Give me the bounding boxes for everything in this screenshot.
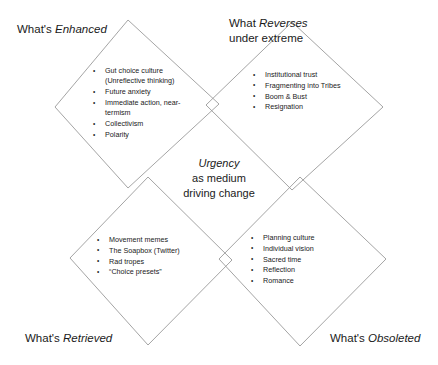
list-item: Boom & Bust [252,92,360,102]
quadrant-label-reverses: What Reverses under extreme [229,16,349,46]
quadrant-label-reverses-prefix: What [229,17,259,29]
center-caption-line2: driving change [0,186,438,201]
quadrant-label-retrieved-emphasis: Retrieved [63,332,112,344]
quadrant-items-retrieved: Movement memesThe Soapbox (Twitter)Rad t… [96,235,202,278]
quadrant-label-reverses-emphasis: Reverses [259,17,308,29]
quadrant-label-obsoleted-prefix: What's [330,332,368,344]
center-caption: Urgency as medium driving change [0,156,438,200]
quadrant-label-enhanced-prefix: What's [17,23,55,35]
center-caption-line1: as medium [0,171,438,186]
quadrant-label-obsoleted-emphasis: Obsoleted [368,332,420,344]
quadrant-items-obsoleted: Planning cultureIndividual visionSacred … [250,233,356,287]
list-item: Immediate action, near-termism [92,98,198,119]
quadrant-label-obsoleted: What's Obsoleted [330,331,420,346]
list-item: Romance [250,276,356,286]
list-item: Rad tropes [96,257,202,267]
list-item: Polarity [92,130,198,140]
quadrant-label-retrieved-prefix: What's [25,332,63,344]
quadrant-label-retrieved: What's Retrieved [25,331,112,346]
quadrant-items-enhanced: Gut choice culture (Unreflective thinkin… [92,66,198,141]
list-item: Future anxiety [92,87,198,97]
list-item: Sacred time [250,255,356,265]
list-item: Collectivism [92,119,198,129]
quadrant-items-reverses: Institutional trustFragmenting into Trib… [252,70,360,113]
list-item: Reflection [250,265,356,275]
quadrant-label-enhanced-emphasis: Enhanced [55,23,107,35]
tetrad-diagram: What's Enhanced What Reverses under extr… [0,0,438,365]
center-caption-title: Urgency [0,156,438,171]
list-item: Individual vision [250,244,356,254]
list-item: Gut choice culture (Unreflective thinkin… [92,66,198,87]
list-item: Fragmenting into Tribes [252,81,360,91]
list-item: Planning culture [250,233,356,243]
list-item: Institutional trust [252,70,360,80]
quadrant-label-enhanced: What's Enhanced [17,22,107,37]
list-item: The Soapbox (Twitter) [96,246,202,256]
quadrant-label-reverses-line2: under extreme [229,31,349,46]
list-item: Resignation [252,102,360,112]
list-item: “Choice presets” [96,267,202,277]
list-item: Movement memes [96,235,202,245]
